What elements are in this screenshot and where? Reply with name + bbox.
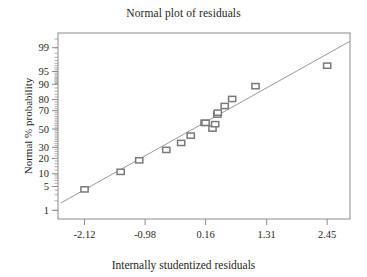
y-axis-ticks: 99959080705030201051 bbox=[39, 39, 59, 216]
data-point bbox=[163, 147, 170, 152]
y-tick-label: 50 bbox=[39, 124, 50, 135]
data-point bbox=[214, 110, 221, 115]
x-axis-ticks: -2.12-0.980.161.312.45 bbox=[74, 219, 337, 240]
data-point bbox=[202, 120, 209, 125]
data-point bbox=[81, 187, 88, 192]
data-point bbox=[117, 169, 124, 174]
y-tick-label: 70 bbox=[39, 105, 50, 116]
data-points bbox=[81, 63, 331, 192]
data-point bbox=[324, 63, 331, 68]
data-point bbox=[136, 158, 143, 163]
data-point bbox=[221, 103, 228, 108]
data-point bbox=[229, 96, 236, 101]
data-point bbox=[187, 133, 194, 138]
y-tick-label: 20 bbox=[39, 153, 50, 164]
x-tick-label: 0.16 bbox=[196, 229, 214, 240]
data-point bbox=[212, 122, 219, 127]
y-tick-label: 99 bbox=[39, 42, 50, 53]
x-tick-label: 2.45 bbox=[318, 229, 336, 240]
y-tick-label: 90 bbox=[39, 79, 50, 90]
plot-area: 99959080705030201051 -2.12-0.980.161.312… bbox=[0, 0, 367, 277]
y-tick-label: 10 bbox=[39, 168, 50, 179]
x-tick-label: -2.12 bbox=[74, 229, 96, 240]
y-tick-label: 1 bbox=[44, 205, 49, 216]
y-tick-label: 5 bbox=[44, 181, 49, 192]
x-tick-label: -0.98 bbox=[134, 229, 156, 240]
normal-probability-plot-figure: Normal plot of residuals Normal % probab… bbox=[0, 0, 367, 277]
data-point bbox=[178, 140, 185, 145]
y-tick-label: 30 bbox=[39, 142, 50, 153]
y-tick-label: 95 bbox=[39, 66, 50, 77]
data-point bbox=[252, 84, 259, 89]
y-tick-label: 80 bbox=[39, 94, 50, 105]
x-tick-label: 1.31 bbox=[257, 229, 275, 240]
